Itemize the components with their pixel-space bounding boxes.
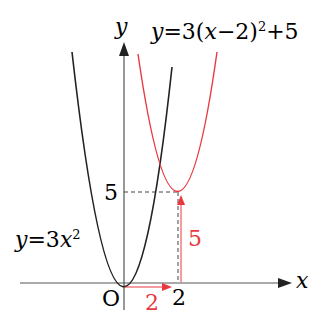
x-tick-label: 2 — [172, 287, 186, 309]
y-tick-label: 5 — [104, 182, 118, 204]
y-axis-arrow-icon — [119, 42, 129, 56]
origin-label: O — [102, 288, 120, 310]
shifted-parabola — [138, 52, 217, 192]
x-axis-arrow-icon — [278, 278, 292, 288]
graph-canvas — [0, 0, 334, 321]
vertical-shift-label: 5 — [188, 228, 202, 250]
base-equation-label: y=3x2 — [15, 228, 81, 251]
base-parabola — [72, 52, 172, 287]
horizontal-shift-label: 2 — [145, 292, 159, 314]
shifted-equation-label: y=3(x−2)2+5 — [151, 20, 299, 43]
y-axis-label: y — [115, 16, 127, 38]
diagram: y x O 2 5 2 5 y=3x2 y=3(x−2)2+5 — [0, 0, 334, 321]
horizontal-shift-arrow-icon — [162, 283, 172, 291]
x-axis-label: x — [296, 270, 308, 292]
